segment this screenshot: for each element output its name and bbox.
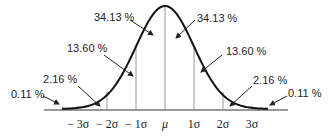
label-right-13: 13.60 % [226, 45, 267, 57]
tick-plus-1-sigma: 1σ [188, 117, 201, 131]
tick-minus-1-sigma: − 1σ [125, 117, 148, 131]
label-left-0: 0.11 % [11, 88, 45, 100]
tick-plus-3-sigma: 3σ [246, 117, 259, 131]
normal-distribution-diagram: 34.13 % 13.60 % 2.16 % 0.11 % 34.13 % 13… [0, 0, 331, 138]
label-right-2: 2.16 % [253, 74, 287, 86]
label-right-0: 0.11 % [288, 87, 322, 99]
label-left-13: 13.60 % [67, 42, 108, 54]
label-left-34: 34.13 % [94, 11, 135, 23]
tick-mu: μ [161, 117, 168, 131]
label-right-34: 34.13 % [197, 12, 238, 24]
tick-minus-2-sigma: − 2σ [96, 117, 119, 131]
tick-plus-2-sigma: 2σ [217, 117, 230, 131]
label-left-2: 2.16 % [43, 73, 77, 85]
tick-minus-3-sigma: − 3σ [67, 117, 90, 131]
